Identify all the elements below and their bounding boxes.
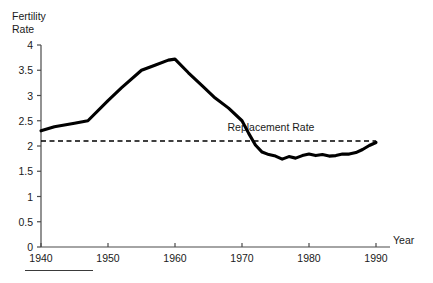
fertility-rate-line <box>41 59 376 159</box>
y-axis-tick-label: 1 <box>7 191 33 203</box>
y-axis-tick-label: 3.5 <box>7 64 33 76</box>
x-axis-tick-label: 1950 <box>88 252 128 264</box>
x-axis-tick-label: 1980 <box>289 252 329 264</box>
y-axis-tick-label: 2 <box>7 140 33 152</box>
chart-figure: FertilityRate Year Replacement Rate 00.5… <box>0 0 433 283</box>
x-axis-tick-label: 1970 <box>222 252 262 264</box>
y-axis-tick-label: 3 <box>7 90 33 102</box>
chart-plot-area <box>0 0 433 283</box>
y-axis-tick-label: 2.5 <box>7 115 33 127</box>
x-axis-tick-label: 1940 <box>21 252 61 264</box>
x-axis-tick-label: 1990 <box>356 252 396 264</box>
y-axis-tick-label: 1.5 <box>7 165 33 177</box>
y-axis-tick-label: 0.5 <box>7 216 33 228</box>
y-axis-tick-label: 4 <box>7 39 33 51</box>
x-axis-tick-label: 1960 <box>155 252 195 264</box>
